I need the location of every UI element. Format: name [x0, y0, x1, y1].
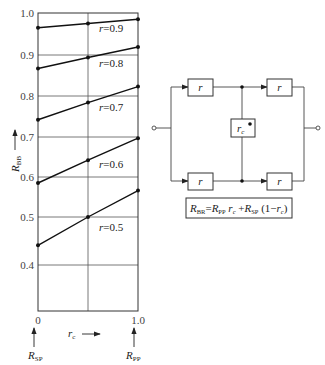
data-point — [86, 158, 90, 162]
data-point — [136, 189, 140, 193]
rpp-label: RPP — [125, 349, 141, 363]
data-point — [136, 45, 140, 49]
junction-top-icon — [240, 85, 244, 89]
data-point — [36, 118, 40, 122]
data-point — [136, 17, 140, 21]
box-bottom-left: r — [188, 173, 213, 190]
svg-text:r: r — [277, 175, 282, 187]
svg-text:0.8: 0.8 — [20, 90, 34, 102]
box-top-left: r — [188, 79, 213, 96]
data-point — [86, 215, 90, 219]
left-terminal-icon — [152, 126, 156, 130]
data-point — [136, 136, 140, 140]
data-point — [36, 243, 40, 247]
svg-text:r: r — [277, 81, 282, 93]
x-axis-label: rc — [68, 327, 100, 341]
data-point — [36, 26, 40, 30]
right-terminal-icon — [316, 126, 320, 130]
svg-text:rc: rc — [68, 327, 75, 341]
x-tick-left: 0 — [35, 314, 41, 326]
dot-icon — [248, 122, 252, 126]
rsp-label: RSP — [27, 349, 43, 363]
svg-text:0.4: 0.4 — [20, 259, 34, 271]
svg-text:r=0.6: r=0.6 — [99, 158, 124, 170]
svg-text:r=0.8: r=0.8 — [99, 57, 124, 69]
data-point — [86, 22, 90, 26]
junction-bottom-icon — [240, 179, 244, 183]
svg-text:r=0.5: r=0.5 — [99, 221, 124, 233]
data-point — [86, 101, 90, 105]
svg-text:r=0.9: r=0.9 — [99, 22, 124, 34]
svg-text:r: r — [198, 175, 203, 187]
svg-text:r: r — [198, 81, 203, 93]
svg-text:0.6: 0.6 — [20, 171, 34, 183]
formula-box: RBR=RPP rc +RSP (1−rc) — [186, 198, 292, 218]
chart: 1.0 0.9 0.8 0.7 0.6 0.5 0.4 RBB r=0.9 r=… — [9, 7, 145, 363]
box-center-rc: rc — [231, 119, 255, 137]
circuit-diagram: r r r r rc RBR=RPP rc +RSP (1−rc) — [152, 79, 320, 218]
data-point — [36, 67, 40, 71]
svg-text:RBB: RBB — [9, 156, 23, 173]
svg-text:0.5: 0.5 — [20, 211, 34, 223]
x-tick-right: 1.0 — [131, 314, 145, 326]
svg-text:r=0.7: r=0.7 — [99, 101, 124, 113]
svg-text:0.7: 0.7 — [20, 131, 34, 143]
data-point — [86, 55, 90, 59]
data-point — [136, 85, 140, 89]
series-labels: r=0.9 r=0.8 r=0.7 r=0.6 r=0.5 — [99, 22, 124, 233]
box-top-right: r — [267, 79, 292, 96]
y-tick-labels: 1.0 0.9 0.8 0.7 0.6 0.5 0.4 — [20, 7, 34, 271]
data-point — [36, 181, 40, 185]
svg-text:0.9: 0.9 — [20, 49, 34, 61]
svg-text:1.0: 1.0 — [20, 7, 34, 19]
box-bottom-right: r — [267, 173, 292, 190]
